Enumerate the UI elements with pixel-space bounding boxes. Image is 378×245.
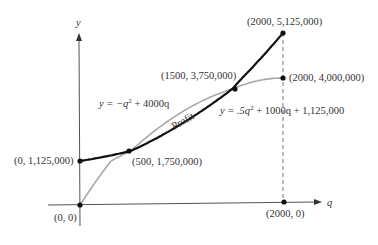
point-break-even-2 — [232, 86, 237, 91]
profit-chart: y q (0, 0) (0, 1,125,000) (500, 1,750,00… — [0, 0, 378, 245]
point-x-end — [281, 199, 286, 204]
point-origin — [77, 202, 82, 207]
y-axis-label: y — [75, 17, 81, 28]
label-break-even-2: (1500, 3,750,000) — [161, 70, 237, 82]
profit-label: Profit — [170, 110, 196, 132]
y-axis-arrow-icon — [76, 33, 82, 41]
x-axis-arrow-icon — [314, 199, 322, 205]
label-revenue-end: (2000, 4,000,000) — [289, 72, 365, 84]
revenue-equation: y = −q2 + 4000q — [98, 97, 170, 109]
cost-equation: y = .5q2 + 1000q + 1,125,000 — [219, 104, 344, 116]
cost-curve — [80, 33, 283, 161]
label-break-even-1: (500, 1,750,000) — [132, 156, 202, 168]
label-cost-end: (2000, 5,125,000) — [247, 16, 323, 28]
label-origin: (0, 0) — [54, 212, 77, 224]
point-break-even-1 — [126, 148, 131, 153]
label-fixed-cost: (0, 1,125,000) — [14, 155, 74, 167]
y-axis — [79, 40, 80, 226]
point-fixed-cost — [77, 158, 82, 163]
label-x-end: (2000, 0) — [266, 208, 305, 220]
point-cost-end — [280, 30, 285, 35]
x-axis — [48, 202, 316, 205]
point-revenue-end — [280, 75, 285, 80]
x-axis-label: q — [327, 197, 332, 208]
